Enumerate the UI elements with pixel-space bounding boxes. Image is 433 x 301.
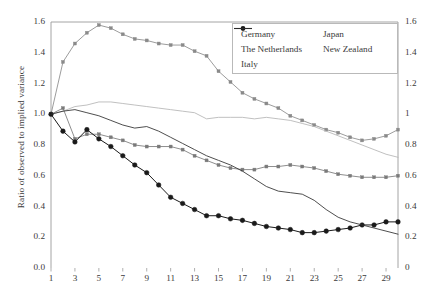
series-marker-japan: [133, 37, 136, 40]
y-tick-label-right: 1.2: [405, 78, 431, 88]
series-marker-japan: [385, 134, 388, 137]
x-tick-label: 15: [209, 273, 229, 283]
y-tick-label-left: 1.2: [19, 78, 45, 88]
series-marker-new-zealand: [109, 144, 114, 149]
series-marker-japan: [265, 102, 268, 105]
series-marker-new-zealand: [348, 226, 353, 231]
legend-label: The Netherlands: [241, 44, 302, 54]
series-line-the-netherlands: [51, 102, 398, 157]
series-marker-germany: [133, 144, 136, 147]
x-tick-label: 3: [65, 273, 85, 283]
series-marker-germany: [313, 167, 316, 170]
series-marker-new-zealand: [276, 226, 281, 231]
y-tick-label-right: 0.6: [405, 170, 431, 180]
x-tick-label: 1: [41, 273, 61, 283]
y-tick-label-right: 1: [405, 108, 431, 118]
y-tick-label-right: 1.6: [405, 16, 431, 26]
x-tick-label: 29: [376, 273, 396, 283]
series-marker-germany: [205, 159, 208, 162]
series-marker-germany: [349, 174, 352, 177]
series-marker-germany: [301, 165, 304, 168]
series-marker-new-zealand: [300, 230, 305, 235]
series-marker-japan: [85, 31, 88, 34]
series-marker-new-zealand: [336, 227, 341, 232]
x-tick-label: 21: [280, 273, 300, 283]
series-marker-germany: [97, 133, 100, 136]
x-tick-label: 23: [304, 273, 324, 283]
legend-row: The NetherlandsNew Zealand: [233, 41, 397, 56]
series-marker-germany: [289, 163, 292, 166]
series-marker-germany: [253, 168, 256, 171]
series-marker-germany: [85, 133, 88, 136]
y-tick-label-left: 0.4: [19, 201, 45, 211]
legend-swatch-icon: [233, 24, 253, 33]
series-marker-germany: [265, 165, 268, 168]
series-marker-japan: [157, 42, 160, 45]
x-tick-label: 19: [256, 273, 276, 283]
y-tick-label-left: 0.2: [19, 231, 45, 241]
x-tick-label: 17: [232, 273, 252, 283]
series-marker-japan: [301, 119, 304, 122]
y-tick-label-right: 0.2: [405, 231, 431, 241]
y-tick-label-right: 0: [405, 262, 431, 272]
legend-item-japan[interactable]: Japan: [319, 29, 344, 39]
y-tick-label-left: 0.8: [19, 139, 45, 149]
series-marker-japan: [253, 97, 256, 100]
legend-item-the-netherlands[interactable]: The Netherlands: [233, 44, 319, 54]
series-marker-germany: [229, 167, 232, 170]
series-marker-germany: [169, 145, 172, 148]
y-tick-label-left: 1.6: [19, 16, 45, 26]
y-tick-label-left: 1.4: [19, 47, 45, 57]
series-marker-new-zealand: [396, 220, 401, 225]
series-line-italy: [51, 110, 398, 235]
x-tick-label: 9: [137, 273, 157, 283]
series-marker-japan: [277, 107, 280, 110]
series-marker-germany: [109, 136, 112, 139]
series-marker-new-zealand: [192, 207, 197, 212]
legend-label: New Zealand: [323, 44, 372, 54]
series-marker-japan: [73, 42, 76, 45]
series-marker-germany: [385, 176, 388, 179]
series-marker-new-zealand: [168, 195, 173, 200]
series-marker-germany: [361, 176, 364, 179]
legend-label: Japan: [323, 29, 344, 39]
x-tick-label: 27: [352, 273, 372, 283]
series-marker-japan: [145, 39, 148, 42]
series-marker-japan: [349, 136, 352, 139]
legend: GermanyJapanThe NetherlandsNew ZealandIt…: [232, 23, 398, 74]
y-tick-label-left: 0.0: [19, 262, 45, 272]
series-marker-new-zealand: [73, 140, 78, 145]
series-marker-japan: [337, 131, 340, 134]
y-tick-label-right: 0.4: [405, 201, 431, 211]
x-tick-label: 25: [328, 273, 348, 283]
series-marker-japan: [397, 128, 400, 131]
series-marker-japan: [109, 27, 112, 30]
x-tick-label: 11: [161, 273, 181, 283]
y-tick-label-left: 0.6: [19, 170, 45, 180]
legend-row: Italy: [233, 56, 397, 71]
series-marker-new-zealand: [228, 217, 233, 222]
series-marker-japan: [181, 44, 184, 47]
series-marker-new-zealand: [312, 230, 317, 235]
series-marker-new-zealand: [384, 220, 389, 225]
legend-item-new-zealand[interactable]: New Zealand: [319, 44, 372, 54]
series-marker-new-zealand: [264, 224, 269, 229]
series-marker-germany: [277, 165, 280, 168]
series-marker-new-zealand: [144, 170, 149, 175]
series-marker-germany: [217, 163, 220, 166]
series-marker-germany: [337, 173, 340, 176]
series-marker-new-zealand: [372, 223, 377, 228]
series-marker-japan: [169, 44, 172, 47]
series-marker-japan: [61, 60, 64, 63]
series-marker-new-zealand: [324, 229, 329, 234]
y-tick-label-right: 1.4: [405, 47, 431, 57]
legend-item-italy[interactable]: Italy: [233, 59, 319, 69]
x-tick-label: 7: [113, 273, 133, 283]
y-tick-label-left: 1.0: [19, 108, 45, 118]
series-marker-new-zealand: [61, 129, 66, 134]
series-marker-japan: [289, 114, 292, 117]
chart-figure: Ratio of observed to implied variance 1.…: [0, 0, 433, 301]
series-marker-japan: [193, 50, 196, 53]
series-marker-japan: [241, 91, 244, 94]
series-marker-japan: [373, 137, 376, 140]
